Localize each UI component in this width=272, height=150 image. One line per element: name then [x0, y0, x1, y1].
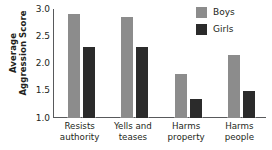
bar-group: [121, 9, 148, 118]
x-axis-category-label: Harmsproperty: [160, 121, 213, 142]
y-axis-tick-label: 2.5: [6, 32, 50, 41]
x-axis-category-label-line: people: [213, 132, 266, 143]
x-axis-category-label: Resistsauthority: [53, 121, 106, 142]
y-axis-tick-labels: 3.02.52.01.51.0: [0, 0, 50, 150]
y-axis-tick-label: 2.0: [6, 59, 50, 68]
legend: BoysGirls: [196, 5, 235, 39]
bar-girls: [243, 91, 255, 118]
legend-item-girls[interactable]: Girls: [196, 22, 235, 36]
bar-boys: [175, 74, 187, 118]
bar-girls: [136, 47, 148, 118]
legend-swatch-boys: [196, 7, 207, 18]
bar-girls: [190, 99, 202, 118]
x-axis-category-label-line: Yells and: [106, 121, 159, 132]
bar-girls: [83, 47, 95, 118]
x-axis-category-label-line: property: [160, 132, 213, 143]
x-axis-category-label: Harmspeople: [213, 121, 266, 142]
bar-boys: [68, 14, 80, 118]
x-axis-category-label-line: authority: [53, 132, 106, 143]
bar-chart: Average Aggression Score 3.02.52.01.51.0…: [0, 0, 272, 150]
legend-item-boys[interactable]: Boys: [196, 5, 235, 19]
x-axis-category-label-line: Harms: [160, 121, 213, 132]
y-axis-tick-label: 1.0: [6, 114, 50, 123]
x-axis-category-label-line: teases: [106, 132, 159, 143]
y-axis-tick-label: 3.0: [6, 5, 50, 14]
x-axis-category-label: Yells andteases: [106, 121, 159, 142]
x-axis-category-label-line: Resists: [53, 121, 106, 132]
y-axis-tick-label: 1.5: [6, 86, 50, 95]
bar-boys: [121, 17, 133, 118]
legend-label: Boys: [213, 8, 235, 17]
bar-group: [68, 9, 95, 118]
bar-boys: [228, 55, 240, 118]
legend-swatch-girls: [196, 24, 207, 35]
x-axis-category-label-line: Harms: [213, 121, 266, 132]
legend-label: Girls: [213, 25, 233, 34]
